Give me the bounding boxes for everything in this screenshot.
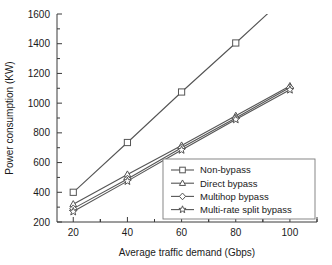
y-tick-label: 800: [33, 127, 50, 138]
x-tick-label: 40: [122, 227, 134, 238]
y-tick-label: 400: [33, 187, 50, 198]
x-tick-label: 80: [230, 227, 242, 238]
legend-label: Direct bypass: [200, 178, 258, 189]
y-tick-label: 1000: [28, 98, 51, 109]
data-point-marker: [70, 189, 76, 195]
data-point-marker: [233, 40, 239, 46]
data-point-marker: [124, 139, 130, 145]
y-tick-label: 600: [33, 157, 50, 168]
legend-label: Multi-rate split bypass: [200, 204, 292, 215]
data-point-marker: [180, 167, 186, 173]
y-tick-label: 1400: [28, 38, 51, 49]
x-tick-label: 60: [176, 227, 188, 238]
x-tick-label: 20: [68, 227, 80, 238]
y-axis-title: Power consumption (KW): [4, 61, 15, 174]
power-consumption-line-chart: 200400600800100012001400160020406080100A…: [0, 0, 332, 265]
chart-canvas: 200400600800100012001400160020406080100A…: [0, 0, 332, 265]
x-axis-title: Average traffic demand (Gbps): [119, 247, 255, 258]
legend-label: Non-bypass: [200, 164, 251, 175]
y-tick-label: 1200: [28, 68, 51, 79]
legend-label: Multihop bypass: [200, 191, 269, 202]
x-tick-label: 100: [282, 227, 299, 238]
data-point-marker: [178, 89, 184, 95]
y-tick-label: 1600: [28, 9, 51, 20]
y-tick-label: 200: [33, 217, 50, 228]
